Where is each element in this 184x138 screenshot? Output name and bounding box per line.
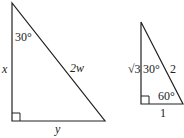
large-angle-top-label: 30°	[15, 31, 32, 43]
large-triangle	[12, 3, 105, 121]
small-angle-top-label: 30°	[143, 63, 160, 75]
large-hypotenuse-label: 2w	[70, 62, 84, 74]
small-hypotenuse-label: 2	[170, 63, 176, 75]
small-side-bottom-label: 1	[160, 107, 166, 119]
large-side-bottom-label: y	[55, 123, 60, 135]
large-side-left-label: x	[2, 63, 7, 75]
small-side-left-label: √3	[128, 63, 141, 75]
small-angle-bottom-right-label: 60°	[158, 90, 175, 102]
